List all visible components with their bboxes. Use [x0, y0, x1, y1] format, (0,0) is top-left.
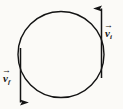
initial-velocity-label: →vi — [105, 24, 112, 40]
figure-canvas — [0, 0, 123, 109]
vector-arrow-accent-icon: → — [104, 21, 113, 30]
vector-arrow-accent-icon: → — [2, 66, 11, 75]
final-velocity-label: →vf — [3, 69, 10, 85]
circular-motion-vector-figure: →vi →vf — [0, 0, 123, 109]
velocity-subscript: i — [110, 33, 112, 41]
velocity-subscript: f — [8, 78, 10, 86]
circular-path — [18, 12, 104, 98]
